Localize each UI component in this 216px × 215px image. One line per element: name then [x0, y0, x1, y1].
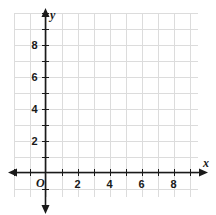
y-tick-label: 8	[31, 39, 37, 51]
x-tick-label: 4	[106, 178, 113, 190]
y-tick-label: 4	[31, 103, 38, 115]
origin-label: O	[36, 176, 45, 190]
x-tick-label: 2	[74, 178, 80, 190]
y-tick-label: 2	[31, 135, 37, 147]
x-tick-label: 8	[170, 178, 176, 190]
y-axis-label: y	[48, 8, 56, 22]
y-tick-label: 6	[31, 71, 37, 83]
x-axis-label: x	[202, 156, 209, 170]
coordinate-plane: 2468 2468 O y x	[0, 0, 216, 215]
x-tick-label: 6	[138, 178, 144, 190]
coordinate-grid-figure: 2468 2468 O y x	[0, 0, 216, 215]
